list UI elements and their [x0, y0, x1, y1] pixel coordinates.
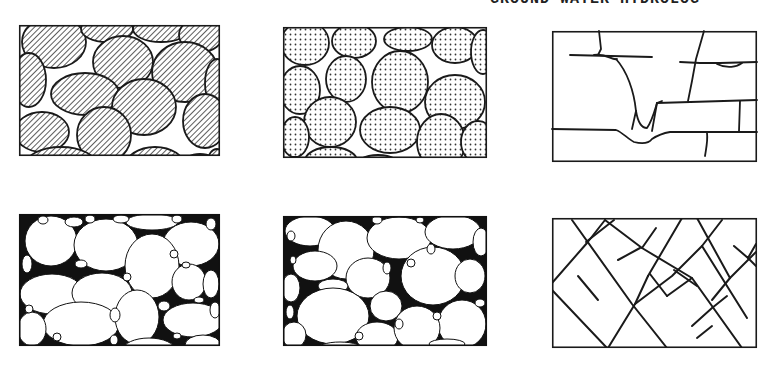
panel-hatched-grains — [19, 25, 220, 156]
panel-solution-joints — [552, 31, 757, 162]
panel-poorly-sorted-deposit — [19, 214, 220, 346]
hatched-grains-figure — [19, 25, 220, 156]
stippled-grains-figure — [283, 27, 487, 158]
panel-stippled-grains — [283, 27, 487, 158]
filled-interstices-figure — [283, 216, 487, 346]
solution-joints-figure — [552, 31, 757, 162]
panel-filled-interstices — [283, 216, 487, 346]
poorly-sorted-figure — [19, 214, 220, 346]
panel-fractured-rock — [552, 218, 757, 348]
running-head: GROUND WATER HYDROLOG — [490, 0, 700, 8]
fractured-rock-figure — [552, 218, 757, 348]
